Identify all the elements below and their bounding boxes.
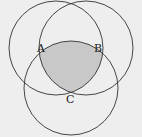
venn-diagram: A B C — [0, 0, 142, 137]
shaded-intersection — [24, 41, 118, 135]
label-a: A — [36, 42, 46, 55]
label-c: C — [66, 93, 74, 106]
label-b: B — [94, 42, 102, 55]
